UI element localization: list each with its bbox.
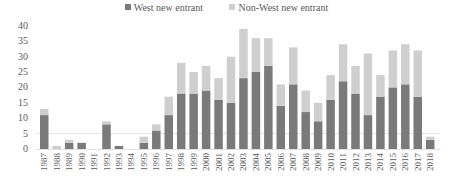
y-tick-label: 15 bbox=[18, 97, 28, 108]
bar-west bbox=[140, 143, 149, 149]
bar-west bbox=[227, 103, 236, 149]
x-tick-label: 1990 bbox=[77, 153, 87, 172]
bar-non-west bbox=[52, 146, 61, 149]
y-tick-label: 5 bbox=[23, 128, 28, 139]
bar-west bbox=[264, 66, 273, 149]
x-tick-label: 2008 bbox=[301, 153, 311, 172]
bar-west bbox=[177, 94, 186, 149]
bar-west bbox=[414, 97, 423, 149]
bar-west bbox=[351, 94, 360, 149]
x-tick-label: 2015 bbox=[388, 153, 398, 172]
bar-west bbox=[426, 140, 435, 149]
x-tick-label: 1996 bbox=[151, 153, 161, 172]
bar-non-west bbox=[152, 124, 161, 130]
bar-west bbox=[40, 115, 49, 149]
x-tick-label: 2010 bbox=[326, 153, 336, 172]
x-tick-label: 2002 bbox=[226, 153, 236, 171]
x-tick-label: 2016 bbox=[400, 153, 410, 172]
bar-west bbox=[277, 106, 286, 149]
y-tick-label: 0 bbox=[23, 143, 28, 154]
x-tick-label: 2000 bbox=[201, 153, 211, 172]
bar-non-west bbox=[102, 121, 111, 124]
y-tick-label: 10 bbox=[18, 112, 28, 123]
bar-non-west bbox=[65, 140, 74, 143]
x-tick-label: 1989 bbox=[64, 153, 74, 172]
x-tick-label: 1994 bbox=[126, 153, 136, 172]
bar-west bbox=[152, 131, 161, 149]
bar-non-west bbox=[227, 57, 236, 103]
x-tick-label: 1995 bbox=[139, 153, 149, 172]
bar-west bbox=[326, 100, 335, 149]
bar-west bbox=[301, 112, 310, 149]
x-tick-label: 1993 bbox=[114, 153, 124, 172]
bar-west bbox=[165, 115, 174, 149]
bar-west bbox=[389, 87, 398, 149]
bar-non-west bbox=[202, 66, 211, 91]
bar-non-west bbox=[165, 97, 174, 115]
bar-west bbox=[289, 84, 298, 149]
bar-west bbox=[239, 78, 248, 149]
bar-non-west bbox=[401, 44, 410, 84]
x-tick-label: 1991 bbox=[89, 153, 99, 171]
bar-west bbox=[115, 146, 124, 149]
bar-non-west bbox=[177, 63, 186, 94]
bar-non-west bbox=[339, 44, 348, 81]
bar-west bbox=[376, 97, 385, 149]
bar-non-west bbox=[140, 137, 149, 143]
bar-west bbox=[401, 84, 410, 149]
bar-non-west bbox=[389, 50, 398, 87]
bar-west bbox=[77, 143, 86, 149]
bar-non-west bbox=[214, 78, 223, 100]
x-tick-label: 2009 bbox=[313, 153, 323, 172]
bar-non-west bbox=[364, 54, 373, 116]
bar-non-west bbox=[326, 75, 335, 100]
x-tick-label: 2014 bbox=[375, 153, 385, 172]
bar-non-west bbox=[189, 72, 198, 94]
x-tick-label: 1992 bbox=[102, 153, 112, 171]
x-tick-label: 1987 bbox=[39, 153, 49, 172]
bar-non-west bbox=[40, 109, 49, 115]
bar-non-west bbox=[264, 38, 273, 66]
x-tick-label: 2011 bbox=[338, 153, 348, 171]
y-tick-label: 35 bbox=[18, 35, 28, 46]
bar-west bbox=[102, 124, 111, 149]
bar-non-west bbox=[314, 103, 323, 121]
y-tick-label: 20 bbox=[18, 81, 28, 92]
x-tick-label: 1998 bbox=[176, 153, 186, 172]
x-tick-label: 2006 bbox=[276, 153, 286, 172]
bar-non-west bbox=[277, 84, 286, 106]
x-tick-label: 2013 bbox=[363, 153, 373, 172]
stacked-bar-chart: West new entrant Non-West new entrant 05… bbox=[0, 0, 453, 182]
x-tick-label: 2005 bbox=[263, 153, 273, 172]
x-tick-label: 2007 bbox=[288, 153, 298, 172]
x-tick-label: 1999 bbox=[189, 153, 199, 172]
bar-non-west bbox=[239, 29, 248, 78]
bar-non-west bbox=[351, 66, 360, 94]
x-tick-label: 2017 bbox=[413, 153, 423, 172]
y-tick-label: 40 bbox=[18, 20, 28, 31]
x-tick-label: 2018 bbox=[425, 153, 435, 172]
bar-west bbox=[189, 94, 198, 149]
y-tick-label: 30 bbox=[18, 51, 28, 62]
bar-west bbox=[339, 81, 348, 149]
x-tick-label: 1997 bbox=[164, 153, 174, 172]
bar-non-west bbox=[301, 90, 310, 112]
bar-west bbox=[214, 100, 223, 149]
x-tick-label: 2004 bbox=[251, 153, 261, 172]
x-tick-label: 2003 bbox=[238, 153, 248, 172]
bar-west bbox=[202, 90, 211, 149]
bar-non-west bbox=[426, 137, 435, 140]
x-tick-label: 2001 bbox=[214, 153, 224, 171]
bar-west bbox=[364, 115, 373, 149]
bar-west bbox=[65, 143, 74, 149]
bar-non-west bbox=[252, 38, 261, 72]
bar-non-west bbox=[414, 50, 423, 96]
plot-area: 0510152025303540198719881989199019911992… bbox=[0, 0, 453, 182]
x-tick-label: 2012 bbox=[351, 153, 361, 171]
bar-non-west bbox=[376, 75, 385, 97]
bar-non-west bbox=[289, 47, 298, 84]
x-tick-label: 1988 bbox=[52, 153, 62, 172]
y-tick-label: 25 bbox=[18, 66, 28, 77]
bar-west bbox=[314, 121, 323, 149]
bar-west bbox=[252, 72, 261, 149]
